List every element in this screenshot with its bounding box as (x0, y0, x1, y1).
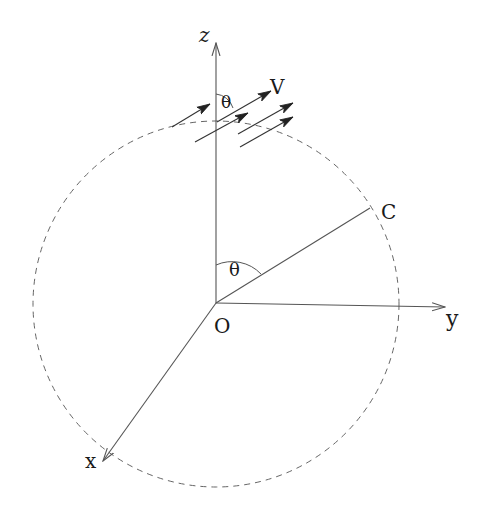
y-axis (216, 303, 445, 307)
angle-theta-center: θ (229, 259, 240, 280)
diagram-canvas: z y x O C V θ θ (0, 0, 485, 507)
velocity-label: V (269, 75, 285, 99)
x-axis-label: x (85, 449, 97, 473)
segment-oc (216, 208, 370, 303)
point-c-label: C (381, 200, 396, 224)
x-axis (103, 303, 216, 461)
velocity-arrow-4 (238, 103, 293, 134)
velocity-arrow-1 (172, 104, 210, 127)
z-axis-label: z (198, 23, 210, 47)
angle-theta-top: θ (221, 92, 231, 112)
velocity-arrow-3 (195, 113, 248, 142)
y-axis-label: y (445, 306, 459, 331)
origin-label: O (214, 314, 230, 338)
velocity-arrows (172, 91, 293, 147)
velocity-arrow-5 (240, 117, 293, 147)
